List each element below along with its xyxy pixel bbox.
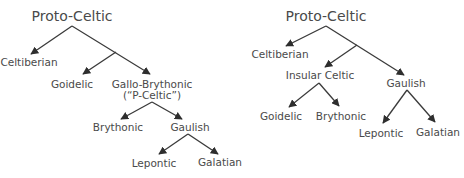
right-edge-root-gaulish bbox=[326, 26, 404, 75]
right-edge-insular-goidelic bbox=[289, 83, 319, 107]
left-edge-root-celtiberian bbox=[31, 26, 72, 54]
left-edge-gaulish-galatian bbox=[188, 134, 218, 154]
right-edge-root-celtiberian bbox=[286, 26, 326, 46]
left-node-brythonic: Brythonic bbox=[93, 121, 144, 133]
left-root-proto-celtic: Proto-Celtic bbox=[32, 8, 113, 24]
celtic-language-trees: Proto-Celtic Celtiberian Goidelic Gallo-… bbox=[0, 0, 464, 178]
right-node-galatian: Galatian bbox=[416, 126, 460, 138]
right-edge-insular-brythonic bbox=[319, 83, 339, 106]
left-node-gallo-brythonic-note: (“P-Celtic”) bbox=[123, 89, 181, 101]
left-edge-gallo-brythonic-gaulish bbox=[152, 102, 182, 119]
left-node-celtiberian: Celtiberian bbox=[0, 56, 57, 68]
right-tree: Proto-Celtic Celtiberian Insular Celtic … bbox=[251, 8, 460, 139]
left-node-lepontic: Lepontic bbox=[132, 157, 177, 169]
left-edge-root-gallo-brythonic bbox=[72, 26, 150, 74]
left-tree: Proto-Celtic Celtiberian Goidelic Gallo-… bbox=[0, 8, 242, 169]
right-node-celtiberian: Celtiberian bbox=[251, 48, 308, 60]
right-node-goidelic: Goidelic bbox=[260, 110, 302, 122]
right-edge-gaulish-lepontic bbox=[383, 90, 407, 123]
left-node-goidelic: Goidelic bbox=[51, 78, 93, 90]
left-edge-gaulish-lepontic bbox=[159, 134, 188, 154]
left-edge-gallo-brythonic-brythonic bbox=[121, 102, 152, 119]
left-edge-branch-goidelic bbox=[83, 52, 116, 74]
right-node-insular-celtic: Insular Celtic bbox=[286, 69, 355, 81]
right-node-lepontic: Lepontic bbox=[359, 127, 404, 139]
left-node-gaulish: Gaulish bbox=[170, 121, 209, 133]
right-edge-branch-insular-celtic bbox=[325, 45, 357, 67]
right-node-brythonic: Brythonic bbox=[316, 110, 367, 122]
left-node-galatian: Galatian bbox=[198, 156, 242, 168]
right-node-gaulish: Gaulish bbox=[386, 77, 425, 89]
right-root-proto-celtic: Proto-Celtic bbox=[286, 8, 367, 24]
right-edge-gaulish-galatian bbox=[407, 90, 435, 122]
